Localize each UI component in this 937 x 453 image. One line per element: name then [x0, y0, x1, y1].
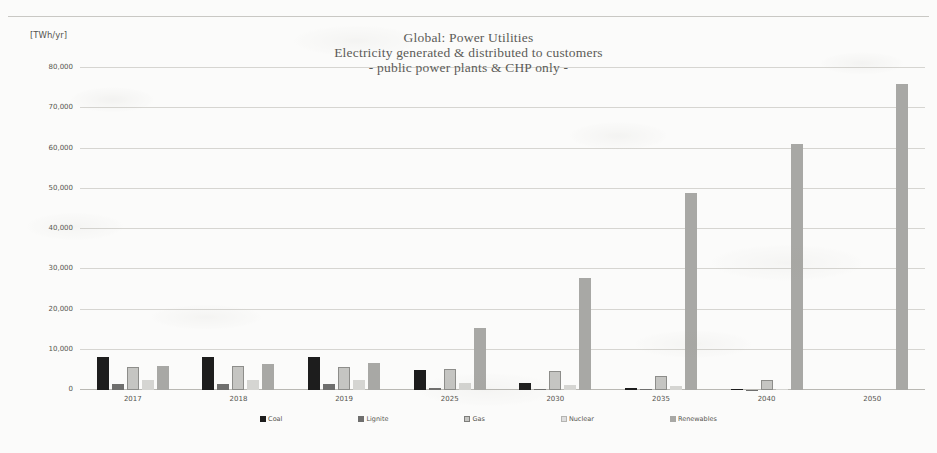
bar-gas[interactable]: [549, 371, 561, 390]
chart-title-line-3: - public power plants & CHP only -: [0, 60, 937, 75]
x-axis-tick-label: 2025: [441, 395, 459, 403]
bar-coal[interactable]: [625, 388, 637, 390]
y-axis-tick-label: 10,000: [49, 345, 81, 353]
bar-coal[interactable]: [414, 370, 426, 390]
bar-lignite[interactable]: [217, 384, 229, 390]
legend-item-lignite[interactable]: Lignite: [358, 415, 388, 423]
bar-renewables[interactable]: [262, 364, 274, 390]
x-axis-tick-label: 2030: [546, 395, 564, 403]
bar-group: 2030: [503, 68, 609, 390]
bar-gas[interactable]: [232, 366, 244, 390]
legend-swatch-gas-icon: [464, 416, 470, 422]
bar-renewables[interactable]: [685, 193, 697, 390]
plot-area: 010,00020,00030,00040,00050,00060,00070,…: [80, 68, 925, 390]
bar-gas[interactable]: [444, 369, 456, 390]
bar-group: 2035: [608, 68, 714, 390]
power-utilities-bar-chart: [TWh/yr] Global: Power Utilities Electri…: [0, 0, 937, 453]
chart-title-block: Global: Power Utilities Electricity gene…: [0, 30, 937, 75]
bar-group: 2017: [80, 68, 186, 390]
bar-lignite[interactable]: [534, 389, 546, 390]
bar-lignite[interactable]: [429, 388, 441, 390]
x-axis-tick-label: 2019: [335, 395, 353, 403]
bar-coal[interactable]: [731, 389, 743, 390]
bar-nuclear[interactable]: [459, 383, 471, 390]
legend-label: Renewables: [678, 415, 717, 423]
legend-item-gas[interactable]: Gas: [464, 415, 484, 423]
bar-renewables[interactable]: [579, 278, 591, 390]
bar-gas[interactable]: [127, 367, 139, 390]
bar-renewables[interactable]: [368, 363, 380, 390]
legend-label: Gas: [472, 415, 484, 423]
y-axis-tick-label: 20,000: [49, 305, 81, 313]
bar-nuclear[interactable]: [670, 386, 682, 390]
chart-title-line-1: Global: Power Utilities: [0, 30, 937, 45]
legend-label: Lignite: [366, 415, 388, 423]
y-axis-tick-label: 70,000: [49, 103, 81, 111]
chart-title-line-2: Electricity generated & distributed to c…: [0, 45, 937, 60]
bar-gas[interactable]: [338, 367, 350, 390]
bar-group: 2040: [714, 68, 820, 390]
bar-coal[interactable]: [308, 357, 320, 390]
chart-legend: CoalLigniteGasNuclearRenewables: [80, 415, 897, 423]
legend-swatch-nuclear-icon: [561, 416, 567, 422]
bar-gas[interactable]: [761, 380, 773, 390]
legend-label: Coal: [268, 415, 282, 423]
bar-nuclear[interactable]: [776, 389, 788, 390]
bar-renewables[interactable]: [157, 366, 169, 390]
y-axis-tick-label: 40,000: [49, 224, 81, 232]
y-axis-tick-label: 30,000: [49, 264, 81, 272]
bar-nuclear[interactable]: [247, 380, 259, 390]
x-axis-tick-label: 2040: [758, 395, 776, 403]
bar-renewables[interactable]: [791, 144, 803, 390]
bar-renewables[interactable]: [474, 328, 486, 390]
x-axis-tick-label: 2017: [124, 395, 142, 403]
bar-gas[interactable]: [655, 376, 667, 390]
bar-lignite[interactable]: [640, 389, 652, 390]
x-axis-tick-label: 2018: [230, 395, 248, 403]
legend-swatch-lignite-icon: [358, 416, 364, 422]
bar-group: 2018: [186, 68, 292, 390]
y-axis-tick-label: 0: [69, 385, 80, 393]
bar-nuclear[interactable]: [142, 380, 154, 390]
legend-label: Nuclear: [569, 415, 594, 423]
bar-group: 2019: [291, 68, 397, 390]
legend-item-coal[interactable]: Coal: [260, 415, 282, 423]
bar-coal[interactable]: [202, 357, 214, 390]
bar-lignite[interactable]: [323, 384, 335, 390]
bar-group: 2025: [397, 68, 503, 390]
bar-lignite[interactable]: [112, 384, 124, 390]
y-axis-tick-label: 50,000: [49, 184, 81, 192]
legend-item-nuclear[interactable]: Nuclear: [561, 415, 594, 423]
x-axis-tick-label: 2035: [652, 395, 670, 403]
bar-nuclear[interactable]: [353, 380, 365, 390]
bar-nuclear[interactable]: [564, 385, 576, 390]
bar-coal[interactable]: [97, 357, 109, 390]
x-axis-tick-label: 2050: [863, 395, 881, 403]
legend-item-renewables[interactable]: Renewables: [670, 415, 717, 423]
y-axis-tick-label: 60,000: [49, 144, 81, 152]
bar-groups: 20172018201920252030203520402050: [80, 68, 925, 390]
bar-coal[interactable]: [519, 383, 531, 390]
legend-swatch-renewables-icon: [670, 416, 676, 422]
bar-group: 2050: [819, 68, 925, 390]
legend-swatch-coal-icon: [260, 416, 266, 422]
bar-renewables[interactable]: [896, 84, 908, 390]
